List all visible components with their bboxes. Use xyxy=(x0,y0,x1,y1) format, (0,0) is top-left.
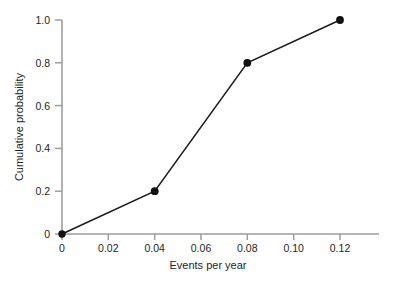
data-point xyxy=(336,16,344,24)
x-axis-ticks xyxy=(62,234,340,240)
x-tick-label-0_06: 0.06 xyxy=(191,243,211,254)
y-axis-title: Cumulative probability xyxy=(14,73,25,181)
data-point xyxy=(58,230,65,237)
y-tick-label-0_8: 0.8 xyxy=(22,58,50,69)
chart-figure: 1.0 0.8 0.6 0.4 0.2 0 0 0.02 0.04 0.06 0… xyxy=(0,0,395,281)
chart-plot-area xyxy=(0,0,395,281)
data-point xyxy=(243,59,251,67)
x-axis-title: Events per year xyxy=(0,260,395,271)
x-tick-label-0: 0 xyxy=(59,243,65,254)
x-tick-label-0_04: 0.04 xyxy=(144,243,164,254)
y-axis-ticks xyxy=(55,20,62,234)
y-tick-label-0_4: 0.4 xyxy=(22,143,50,154)
y-tick-label-0_2: 0.2 xyxy=(22,186,50,197)
y-tick-label-1_0: 1.0 xyxy=(22,15,50,26)
x-tick-label-0_10: 0.10 xyxy=(283,243,303,254)
x-tick-label-0_02: 0.02 xyxy=(98,243,118,254)
x-tick-label-0_12: 0.12 xyxy=(330,243,350,254)
y-tick-label-0: 0 xyxy=(22,229,50,240)
x-axis-title-text: Events per year xyxy=(169,259,246,271)
data-series-line xyxy=(62,20,340,234)
y-tick-label-0_6: 0.6 xyxy=(22,100,50,111)
x-tick-label-0_08: 0.08 xyxy=(237,243,257,254)
data-point xyxy=(151,187,159,195)
